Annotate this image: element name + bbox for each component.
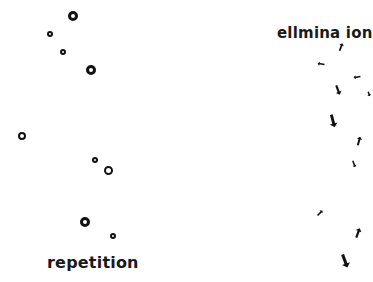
ring-icon [47, 31, 53, 37]
label-repetition: repetition [47, 253, 139, 272]
ring-icon [110, 233, 116, 239]
ring-icon [68, 11, 78, 21]
ring-icon [80, 217, 90, 227]
ring-icon [18, 132, 26, 140]
label-ellmina-ion: ellmina ion [277, 24, 373, 42]
diagram-canvas: repetition ellmina ion [0, 0, 373, 282]
ring-icon [92, 157, 98, 163]
ring-icon [104, 166, 113, 175]
ring-icon [60, 49, 66, 55]
ring-icon [86, 65, 96, 75]
